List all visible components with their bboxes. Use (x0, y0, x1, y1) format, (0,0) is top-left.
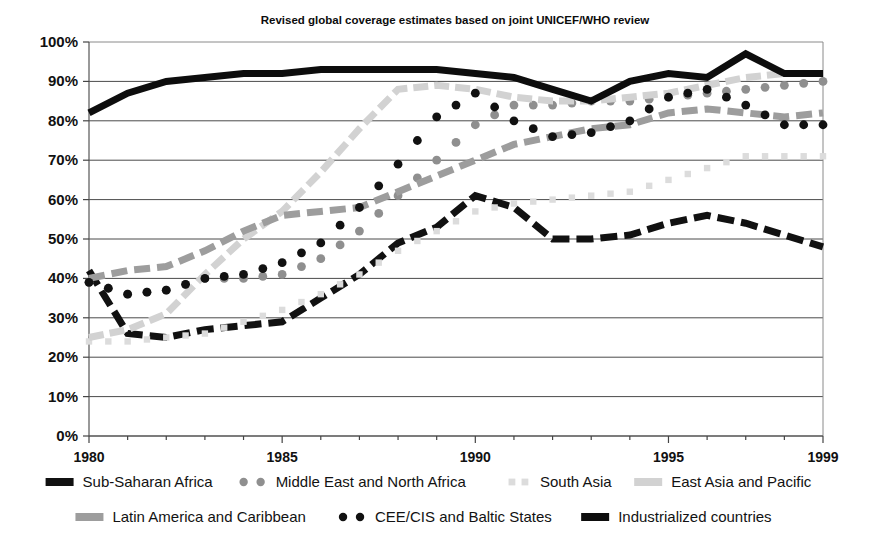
data-point (799, 120, 808, 129)
data-point (625, 116, 634, 125)
data-point (413, 136, 422, 145)
legend-swatch-middle-east-and-north-africa (239, 478, 264, 486)
legend-square (509, 479, 516, 486)
data-point (143, 288, 152, 297)
data-point (741, 101, 750, 110)
data-point (471, 120, 480, 129)
data-point (200, 274, 209, 283)
legend-item-industrialized-countries[interactable]: Industrialized countries (581, 508, 771, 525)
data-point (336, 241, 345, 250)
data-point (395, 248, 401, 254)
y-tick-label-0: 0% (56, 427, 78, 444)
data-point (548, 132, 557, 141)
data-point (279, 307, 285, 313)
data-point (646, 183, 652, 189)
chart-container: 0%10%20%30%40%50%60%70%80%90%100%1980198… (0, 0, 879, 551)
x-tick-label-1985: 1985 (267, 449, 298, 465)
data-point (432, 112, 441, 121)
x-tick-label-1995: 1995 (653, 449, 684, 465)
legend-dot (356, 513, 364, 521)
data-point (607, 190, 613, 196)
legend-label: Industrialized countries (618, 508, 771, 525)
legend-item-sub-saharan-africa[interactable]: Sub-Saharan Africa (46, 473, 214, 490)
axis-labels: 0%10%20%30%40%50%60%70%80%90%100%1980198… (40, 33, 839, 465)
data-point (123, 290, 132, 299)
series-line (89, 109, 823, 278)
series-cee-cis-and-baltic-states (85, 85, 828, 299)
chart-title-layer: Revised global coverage estimates based … (261, 14, 650, 26)
data-point (741, 85, 750, 94)
data-point (530, 198, 536, 204)
data-point (588, 192, 594, 198)
legend-item-latin-america-and-caribbean[interactable]: Latin America and Caribbean (75, 508, 305, 525)
y-tick-label-30: 30% (48, 309, 78, 326)
y-tick-label-90: 90% (48, 72, 78, 89)
data-point (374, 181, 383, 190)
data-point (316, 239, 325, 248)
data-point (337, 281, 343, 287)
data-point (704, 165, 710, 171)
data-point (258, 272, 267, 281)
legend-dot (239, 478, 247, 486)
legend-swatch-south-asia (509, 479, 529, 486)
data-point (683, 89, 692, 98)
data-point (239, 270, 248, 279)
data-point (297, 248, 306, 257)
legend-item-middle-east-and-north-africa[interactable]: Middle East and North Africa (239, 473, 466, 490)
data-point (163, 334, 169, 340)
data-point (181, 280, 190, 289)
data-point (587, 128, 596, 137)
data-point (685, 171, 691, 177)
data-point (491, 204, 497, 210)
data-point (569, 194, 575, 200)
data-point (761, 110, 770, 119)
data-point (645, 105, 654, 114)
y-tick-label-20: 20% (48, 348, 78, 365)
data-point (104, 284, 113, 293)
data-point (819, 120, 828, 129)
data-point (432, 156, 441, 165)
data-point (240, 319, 246, 325)
data-point (374, 209, 383, 218)
data-point (510, 116, 519, 125)
series-latin-america-and-caribbean (89, 109, 823, 278)
data-point (743, 153, 749, 159)
data-point (414, 238, 420, 244)
data-point (703, 85, 712, 94)
data-point (376, 259, 382, 265)
x-tick-label-1990: 1990 (460, 449, 491, 465)
data-point (819, 77, 828, 86)
series-east-asia-and-pacific (89, 74, 823, 338)
y-tick-label-60: 60% (48, 191, 78, 208)
legend-item-cee-cis-and-baltic-states[interactable]: CEE/CIS and Baltic States (339, 508, 552, 525)
data-point (278, 258, 287, 267)
data-point (510, 101, 519, 110)
data-point (567, 130, 576, 139)
data-point (722, 93, 731, 102)
data-point (781, 153, 787, 159)
data-point (220, 272, 229, 281)
data-point (453, 218, 459, 224)
y-tick-label-40: 40% (48, 269, 78, 286)
data-point (511, 200, 517, 206)
coverage-line-chart: 0%10%20%30%40%50%60%70%80%90%100%1980198… (0, 0, 879, 551)
data-point (297, 262, 306, 271)
data-point (355, 203, 364, 212)
data-point (356, 271, 362, 277)
data-point (221, 324, 227, 330)
data-point (549, 196, 555, 202)
data-point (394, 160, 403, 169)
legend-square (522, 479, 529, 486)
data-point (336, 221, 345, 230)
y-tick-label-50: 50% (48, 230, 78, 247)
data-point (105, 338, 111, 344)
legend-dot (256, 478, 264, 486)
data-point (490, 110, 499, 119)
data-point (298, 299, 304, 305)
data-point (162, 286, 171, 295)
data-point (627, 189, 633, 195)
data-point (182, 332, 188, 338)
legend-item-east-asia-and-pacific[interactable]: East Asia and Pacific (634, 473, 812, 490)
legend-item-south-asia[interactable]: South Asia (509, 473, 613, 490)
legend-label: South Asia (540, 473, 612, 490)
